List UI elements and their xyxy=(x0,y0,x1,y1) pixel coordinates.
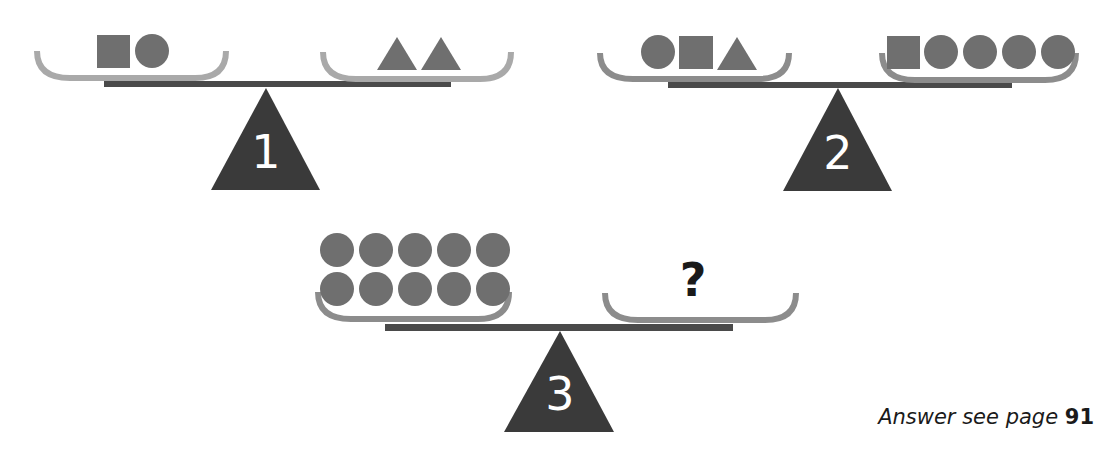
circle-shape xyxy=(320,233,354,267)
circle-shape xyxy=(963,35,997,69)
circle-shape xyxy=(135,34,169,68)
circle-shape xyxy=(437,233,471,267)
triangle-shape xyxy=(421,37,461,70)
scale-3-number: 3 xyxy=(545,367,574,421)
circle-shape xyxy=(437,272,471,306)
scale-2-number: 2 xyxy=(823,126,852,180)
triangle-shape xyxy=(377,37,417,70)
scale-1-number: 1 xyxy=(251,125,280,179)
circle-shape xyxy=(641,35,675,69)
answer-prefix: Answer see page xyxy=(878,405,1065,429)
circle-shape xyxy=(476,233,510,267)
circle-shape xyxy=(359,272,393,306)
square-shape xyxy=(887,36,920,69)
scale-1-left-pan xyxy=(37,51,226,78)
scale-2: 2 xyxy=(600,35,1076,191)
answer-page-number: 91 xyxy=(1065,405,1094,429)
scale-3-beam xyxy=(385,324,733,331)
square-shape xyxy=(97,35,130,68)
circle-shape xyxy=(398,233,432,267)
unknown-question-mark: ? xyxy=(680,253,707,307)
triangle-shape xyxy=(717,37,757,70)
answer-reference: Answer see page 91 xyxy=(878,405,1094,429)
circle-shape xyxy=(924,35,958,69)
scale-1-right-pan xyxy=(323,52,511,79)
circle-shape xyxy=(476,272,510,306)
circle-shape xyxy=(320,272,354,306)
circle-shape xyxy=(1041,35,1075,69)
scale-1: 1 xyxy=(37,34,511,190)
scale-3-circles xyxy=(320,233,510,306)
balance-puzzle-diagram: 1 2 ? 3 xyxy=(0,0,1108,450)
square-shape xyxy=(679,36,713,69)
circle-shape xyxy=(1002,35,1036,69)
circle-shape xyxy=(359,233,393,267)
scale-3: ? 3 xyxy=(318,233,796,432)
circle-shape xyxy=(398,272,432,306)
